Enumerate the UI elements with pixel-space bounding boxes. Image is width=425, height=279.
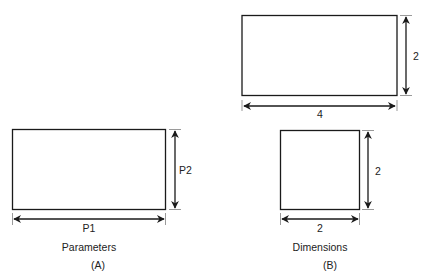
panel-b-tag: (B) — [323, 259, 337, 271]
p2-label: P2 — [179, 164, 192, 176]
dimension-rectangle-2x2 — [281, 131, 360, 210]
panel-a-tag: (A) — [91, 259, 105, 271]
width-dimension-bottom: 2 — [281, 213, 360, 234]
p1-label: P1 — [83, 222, 96, 234]
dimensions-caption: Dimensions — [293, 241, 348, 253]
parameters-caption: Parameters — [62, 241, 116, 253]
top-height-label: 2 — [413, 50, 419, 62]
panel-b-bottom: 2 2 Dimensions (B) — [281, 131, 382, 272]
diagram-canvas: P2 P1 Parameters (A) 2 4 — [0, 0, 425, 279]
width-dimension-top: 4 — [242, 100, 397, 120]
bottom-width-label: 2 — [317, 222, 323, 234]
panel-a: P2 P1 Parameters (A) — [13, 130, 193, 272]
height-dimension-bottom: 2 — [362, 131, 381, 210]
panel-b-top: 2 4 — [242, 16, 419, 121]
width-dimension-p1: P1 — [13, 213, 166, 234]
parameter-rectangle — [13, 130, 166, 210]
top-width-label: 4 — [317, 108, 323, 120]
bottom-height-label: 2 — [375, 165, 381, 177]
height-dimension-top: 2 — [400, 16, 419, 96]
height-dimension-p2: P2 — [169, 130, 192, 210]
dimension-rectangle-4x2 — [242, 16, 397, 96]
